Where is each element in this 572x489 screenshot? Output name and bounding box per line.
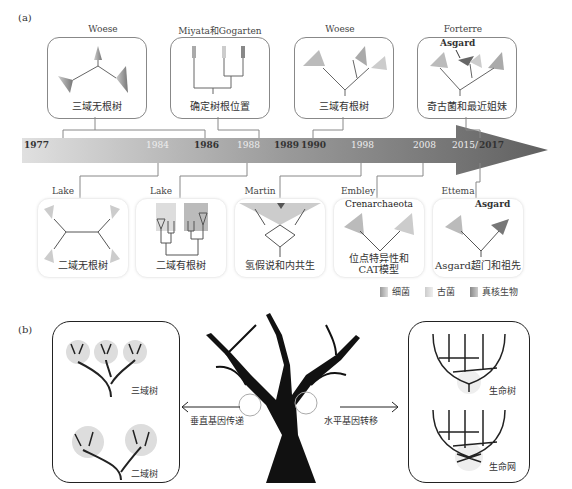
right-arrow-icon: [340, 402, 400, 412]
bottom-card-5: Asgard Asgard超门和祖先: [432, 198, 524, 278]
eukaryota-swatch-icon: [470, 287, 478, 297]
bottom-caption-4-line1: 位点特异性和: [334, 253, 424, 264]
three-domain-tree-icon: [53, 322, 179, 482]
tree-of-life-illustration-icon: [186, 305, 386, 485]
legend-archaea: 古菌: [425, 285, 455, 298]
legend-eukaryota: 真核生物: [470, 285, 518, 298]
bottom-author-3: Martin: [240, 186, 280, 196]
two-domain-label: 二域树: [131, 467, 158, 480]
year-2015: 2015/: [452, 140, 478, 150]
tree-and-web-of-life-icon: [409, 322, 529, 482]
bottom-caption-3: 氢假说和内共生: [235, 257, 325, 272]
tree-of-life-label: 生命树: [489, 384, 516, 397]
archaea-swatch-icon: [425, 287, 433, 297]
legend-bacteria: 细菌: [380, 285, 410, 298]
year-1986: 1986: [194, 140, 219, 150]
year-1998: 1998: [351, 140, 374, 150]
bottom-card-2: 二域有根树: [135, 198, 227, 278]
left-arrow-icon: [180, 402, 240, 412]
web-of-life-label: 生命网: [489, 460, 516, 473]
vertical-gene-transfer-label: 垂直基因传递: [190, 414, 244, 427]
bottom-caption-1: 二域无根树: [38, 257, 128, 272]
life-tree-web-box: 生命树 生命网: [408, 321, 530, 483]
bottom-card-3: 氢假说和内共生: [234, 198, 326, 278]
bottom-card-4: Crenarchaeota 位点特异性和 CAT模型: [333, 198, 425, 278]
horizontal-gene-transfer-label: 水平基因转移: [324, 414, 378, 427]
timeline-connectors: [0, 0, 572, 200]
bottom-caption-4-line2: CAT模型: [334, 264, 424, 275]
bottom-card-1: 二域无根树: [37, 198, 129, 278]
year-2008: 2008: [413, 140, 436, 150]
year-1990: 1990: [301, 140, 326, 150]
bacteria-swatch-icon: [380, 287, 388, 297]
year-2017: 2017: [479, 140, 504, 150]
bottom-caption-2: 二域有根树: [136, 257, 226, 272]
three-domain-label: 三域树: [131, 384, 158, 397]
year-1988: 1988: [237, 140, 260, 150]
legend-label-eukaryota: 真核生物: [482, 285, 518, 298]
year-1984: 1984: [146, 140, 169, 150]
bottom-author-4: Embley: [338, 186, 378, 196]
domain-trees-box: 三域树 二域树: [52, 321, 180, 483]
legend-label-archaea: 古菌: [437, 285, 455, 298]
bottom-author-2: Lake: [146, 186, 176, 196]
panel-b-label: (b): [18, 324, 32, 335]
year-1977: 1977: [24, 140, 49, 150]
bottom-caption-4: 位点特异性和 CAT模型: [334, 253, 424, 275]
bottom-caption-5: Asgard超门和祖先: [433, 257, 523, 272]
legend-label-bacteria: 细菌: [392, 285, 410, 298]
bottom-author-1: Lake: [48, 186, 78, 196]
bottom-author-5: Ettema: [438, 186, 478, 196]
year-1989: 1989: [274, 140, 299, 150]
